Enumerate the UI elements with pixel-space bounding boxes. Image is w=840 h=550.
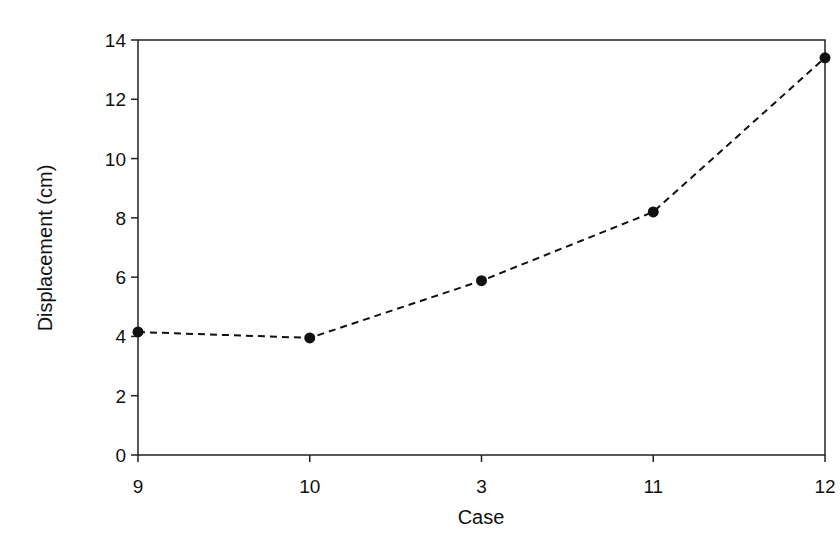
series-line bbox=[138, 58, 825, 338]
x-tick-label: 11 bbox=[643, 476, 663, 497]
data-point-marker bbox=[820, 52, 831, 63]
plot-border bbox=[138, 40, 825, 455]
y-tick-label: 0 bbox=[115, 445, 126, 466]
y-tick-label: 6 bbox=[115, 267, 126, 288]
data-point-marker bbox=[133, 326, 144, 337]
data-point-marker bbox=[476, 275, 487, 286]
y-tick-label: 4 bbox=[115, 326, 126, 347]
y-tick-label: 8 bbox=[115, 208, 126, 229]
plot-frame bbox=[138, 40, 825, 455]
y-axis: 02468101214 bbox=[105, 30, 138, 466]
y-tick-label: 12 bbox=[105, 89, 126, 110]
x-tick-label: 10 bbox=[299, 476, 320, 497]
x-axis: 91031112 bbox=[133, 455, 836, 497]
data-point-marker bbox=[304, 332, 315, 343]
x-axis-title: Case bbox=[458, 506, 505, 528]
data-point-marker bbox=[648, 206, 659, 217]
x-tick-label: 9 bbox=[133, 476, 144, 497]
x-tick-label: 3 bbox=[476, 476, 487, 497]
y-tick-label: 10 bbox=[105, 149, 126, 170]
line-chart: 02468101214 91031112 Case Displacement (… bbox=[0, 0, 840, 550]
y-axis-title: Displacement (cm) bbox=[34, 165, 56, 332]
data-series bbox=[133, 52, 831, 343]
x-tick-label: 12 bbox=[814, 476, 835, 497]
y-tick-label: 14 bbox=[105, 30, 127, 51]
y-tick-label: 2 bbox=[115, 386, 126, 407]
